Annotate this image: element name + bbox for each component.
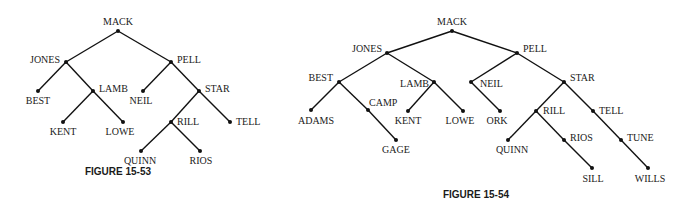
node-quinn [139, 149, 143, 153]
edge-lamb-lowe [93, 91, 123, 122]
edge-pell-star [171, 62, 199, 91]
node-jones [64, 60, 68, 64]
node-lamb [91, 89, 95, 93]
node-rill [169, 120, 173, 124]
node-label-quinn: QUINN [124, 155, 156, 166]
node-lamb [432, 80, 436, 84]
node-label-rill: RILL [177, 116, 199, 127]
edge-rios-sill [564, 140, 592, 168]
node-star [197, 89, 201, 93]
node-quinn [506, 138, 510, 142]
figure-2: MACKJONESPELLBESTLAMBNEILSTARADAMSCAMPKE… [298, 16, 665, 200]
node-label-neil: NEIL [130, 95, 153, 106]
node-label-tell: TELL [236, 116, 260, 127]
node-lowe [121, 120, 125, 124]
node-camp [366, 108, 370, 112]
edge-jones-best [38, 62, 66, 91]
edge-mack-pell [452, 31, 517, 53]
node-mack [450, 29, 454, 33]
node-label-lowe: LOWE [106, 126, 135, 137]
edge-star-tell [564, 82, 593, 111]
node-label-kent: KENT [50, 126, 77, 137]
node-label-jones: JONES [30, 54, 60, 65]
edge-lamb-lowe [434, 82, 463, 111]
node-label-gage: GAGE [382, 144, 410, 155]
node-label-kent: KENT [395, 115, 422, 126]
node-label-lowe: LOWE [446, 115, 475, 126]
node-label-star: STAR [205, 83, 230, 94]
node-label-mack: MACK [437, 16, 468, 27]
node-pell [515, 51, 519, 55]
edge-pell-neil [143, 62, 171, 91]
node-label-rill: RILL [543, 105, 565, 116]
node-adams [309, 108, 313, 112]
node-label-lamb: LAMB [400, 78, 429, 89]
node-label-camp: CAMP [369, 97, 398, 108]
node-neil [141, 89, 145, 93]
node-kent [61, 120, 65, 124]
node-gage [394, 138, 398, 142]
edge-best-adams [311, 82, 339, 110]
edge-rill-quinn [508, 111, 536, 140]
node-label-tell: TELL [599, 105, 623, 116]
node-label-best: BEST [26, 95, 50, 106]
node-label-tune: TUNE [627, 132, 654, 143]
figure-caption: FIGURE 15-54 [443, 189, 510, 200]
node-label-rios: RIOS [570, 132, 593, 143]
node-wills [646, 166, 650, 170]
edge-camp-gage [368, 110, 396, 140]
node-label-star: STAR [570, 72, 595, 83]
node-rill [534, 109, 538, 113]
figure-caption: FIGURE 15-53 [85, 166, 152, 177]
edge-jones-best [339, 53, 387, 82]
node-best [337, 80, 341, 84]
node-tell [591, 109, 595, 113]
tree-diagrams: MACKJONESPELLBESTLAMBNEILSTARKENTLOWERIL… [0, 0, 681, 209]
edge-jones-lamb [66, 62, 93, 91]
node-tune [619, 138, 623, 142]
node-star [562, 80, 566, 84]
node-label-rios: RIOS [190, 155, 213, 166]
node-neil [469, 80, 473, 84]
node-label-quinn: QUINN [496, 144, 528, 155]
edge-mack-pell [118, 31, 171, 62]
edge-rill-quinn [141, 122, 171, 151]
edge-tune-wills [621, 140, 648, 168]
node-tell [228, 120, 232, 124]
node-pell [169, 60, 173, 64]
node-best [36, 89, 40, 93]
edge-mack-jones [66, 31, 118, 62]
edge-mack-jones [387, 31, 452, 53]
node-mack [116, 29, 120, 33]
node-label-best: BEST [309, 72, 333, 83]
node-label-wills: WILLS [635, 173, 666, 184]
figure-1: MACKJONESPELLBESTLAMBNEILSTARKENTLOWERIL… [26, 16, 261, 177]
node-label-jones: JONES [352, 43, 382, 54]
node-kent [406, 109, 410, 113]
node-label-sill: SILL [582, 173, 603, 184]
node-label-ork: ORK [486, 115, 508, 126]
node-label-adams: ADAMS [298, 115, 334, 126]
node-rios [562, 138, 566, 142]
node-label-neil: NEIL [480, 78, 503, 89]
node-label-pell: PELL [177, 54, 201, 65]
node-label-pell: PELL [523, 43, 547, 54]
node-rios [198, 149, 202, 153]
node-label-lamb: LAMB [99, 83, 128, 94]
edge-pell-star [517, 53, 564, 82]
edge-star-tell [199, 91, 230, 122]
node-lowe [461, 109, 465, 113]
edge-lamb-kent [63, 91, 93, 122]
node-label-mack: MACK [103, 16, 134, 27]
edge-best-camp [339, 82, 368, 110]
node-sill [590, 166, 594, 170]
node-ork [498, 109, 502, 113]
node-jones [385, 51, 389, 55]
